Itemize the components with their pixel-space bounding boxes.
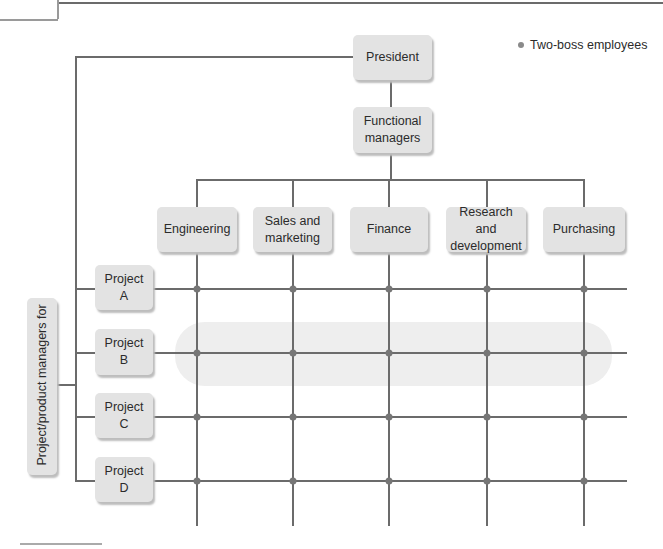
department-engineering: Engineering xyxy=(157,207,237,252)
rd-line xyxy=(486,252,488,526)
project-a-row xyxy=(75,288,627,290)
dot-icon xyxy=(194,414,201,421)
department-label: Purchasing xyxy=(553,221,616,238)
dot-icon xyxy=(581,350,588,357)
department-label: Finance xyxy=(367,221,411,238)
engineering-line xyxy=(196,252,198,526)
dot-icon xyxy=(290,350,297,357)
dot-icon xyxy=(484,478,491,485)
connector-president-functional xyxy=(390,80,392,108)
department-label: Engineering xyxy=(164,221,231,238)
connector-president-left xyxy=(75,56,355,58)
dot-icon xyxy=(484,414,491,421)
header-rule-vertical xyxy=(57,0,59,19)
project-label: Project A xyxy=(102,271,146,305)
project-b-highlight xyxy=(175,322,612,386)
project-label: Project B xyxy=(102,335,146,369)
project-a-box: Project A xyxy=(95,265,153,310)
dot-icon xyxy=(290,414,297,421)
department-label: Sales and marketing xyxy=(262,213,324,247)
dot-icon xyxy=(194,350,201,357)
legend-label: Two-boss employees xyxy=(530,38,647,52)
dot-icon xyxy=(581,414,588,421)
president-label: President xyxy=(366,49,419,66)
project-d-box: Project D xyxy=(95,457,153,502)
dot-icon xyxy=(484,350,491,357)
project-c-box: Project C xyxy=(95,393,153,438)
department-label: Research and development xyxy=(448,204,524,255)
department-finance: Finance xyxy=(350,207,428,252)
project-b-row xyxy=(75,352,627,354)
dot-icon xyxy=(386,350,393,357)
sales-line xyxy=(292,252,294,526)
project-b-box: Project B xyxy=(95,329,153,375)
connector-functional-bus xyxy=(390,153,392,180)
purchasing-line xyxy=(583,252,585,526)
functional-managers-label: Functional managers xyxy=(358,113,428,147)
dot-icon xyxy=(518,42,524,48)
dot-icon xyxy=(386,414,393,421)
dot-icon xyxy=(581,478,588,485)
dot-icon xyxy=(484,286,491,293)
project-c-row xyxy=(75,416,627,418)
department-research-development: Research and development xyxy=(446,207,526,252)
dot-icon xyxy=(581,286,588,293)
header-rule xyxy=(57,2,663,4)
dot-icon xyxy=(194,286,201,293)
legend: Two-boss employees xyxy=(518,38,647,52)
president-box: President xyxy=(353,35,432,80)
footnote-rule xyxy=(20,543,102,545)
sales-line-top xyxy=(292,179,294,209)
department-sales-marketing: Sales and marketing xyxy=(253,207,332,252)
side-label-connector xyxy=(57,384,76,386)
project-label: Project C xyxy=(102,399,146,433)
project-d-row xyxy=(75,480,627,482)
header-rule-short xyxy=(0,19,58,21)
side-label: Project/product managers for xyxy=(35,296,49,474)
dot-icon xyxy=(386,286,393,293)
functional-managers-box: Functional managers xyxy=(353,107,432,153)
engineering-line-top xyxy=(196,179,198,209)
dot-icon xyxy=(290,478,297,485)
department-bus xyxy=(196,179,584,181)
dot-icon xyxy=(290,286,297,293)
project-label: Project D xyxy=(102,463,146,497)
dot-icon xyxy=(194,478,201,485)
department-purchasing: Purchasing xyxy=(543,207,625,252)
finance-line xyxy=(388,252,390,526)
purchasing-line-top xyxy=(583,179,585,209)
dot-icon xyxy=(386,478,393,485)
finance-line-top xyxy=(388,179,390,209)
